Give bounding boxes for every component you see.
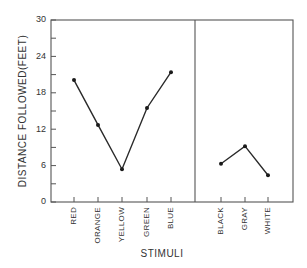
plot-frame bbox=[51, 20, 293, 202]
x-axis-tick-labels-right: BLACK GRAY WHITE bbox=[216, 207, 272, 235]
data-point-black bbox=[219, 162, 223, 166]
data-point-white bbox=[266, 173, 270, 177]
data-point-blue bbox=[169, 70, 173, 74]
x-tick-label-white: WHITE bbox=[263, 207, 272, 234]
data-point-green bbox=[145, 106, 149, 110]
y-tick-label: 6 bbox=[41, 160, 46, 170]
data-point-orange bbox=[96, 123, 100, 127]
y-tick-label: 0 bbox=[41, 196, 46, 206]
data-point-gray bbox=[243, 144, 247, 148]
y-tick-label: 12 bbox=[36, 124, 46, 134]
y-axis-tick-labels: 0 6 12 18 24 30 bbox=[36, 14, 46, 206]
y-tick-label: 18 bbox=[36, 87, 46, 97]
x-tick-label-gray: GRAY bbox=[240, 207, 249, 231]
x-tick-label-green: GREEN bbox=[142, 207, 151, 237]
y-tick-label: 30 bbox=[36, 14, 46, 24]
x-axis-title: STIMULI bbox=[141, 248, 184, 259]
y-axis-title: DISTANCE FOLLOWED(FEET) bbox=[17, 35, 28, 187]
series-achromatic bbox=[219, 144, 270, 177]
y-tick-label: 24 bbox=[36, 51, 46, 61]
x-tick-label-black: BLACK bbox=[216, 207, 225, 235]
data-point-yellow bbox=[120, 167, 124, 171]
series-line bbox=[74, 72, 171, 169]
y-axis-ticks bbox=[51, 20, 56, 202]
series-chromatic bbox=[72, 70, 173, 171]
x-axis-tick-labels-left: RED ORANGE YELLOW GREEN BLUE bbox=[69, 207, 175, 244]
data-point-red bbox=[72, 78, 76, 82]
x-tick-label-blue: BLUE bbox=[166, 207, 175, 229]
x-axis-ticks bbox=[74, 197, 268, 202]
series-line bbox=[221, 146, 268, 175]
line-chart: 0 6 12 18 24 30 RED ORANGE YELLOW GREEN … bbox=[0, 0, 307, 268]
x-tick-label-yellow: YELLOW bbox=[117, 207, 126, 242]
x-tick-label-red: RED bbox=[69, 207, 78, 225]
x-tick-label-orange: ORANGE bbox=[93, 207, 102, 243]
